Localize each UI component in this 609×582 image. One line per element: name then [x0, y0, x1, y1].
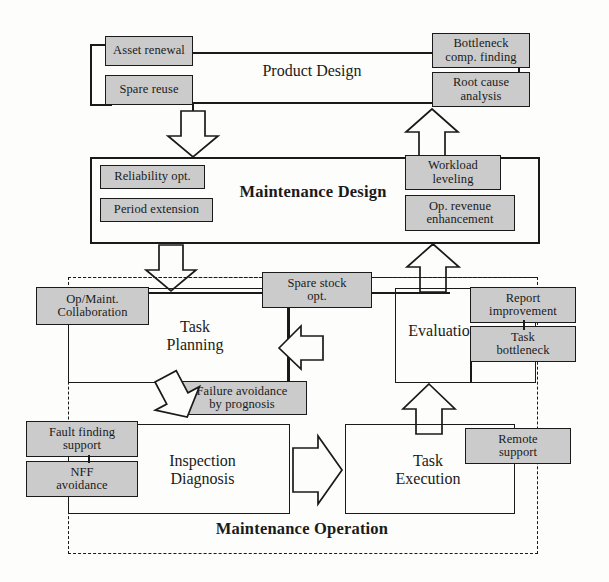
maintenance-design-text: Maintenance Design [239, 182, 386, 201]
section-label-maintenance-design: Maintenance Design [218, 183, 408, 201]
maintenance-operation-text: Maintenance Operation [216, 519, 388, 538]
task-planning-line2: Planning [167, 336, 224, 353]
connector-spare-to-rootcause [192, 102, 437, 104]
section-label-inspection-diagnosis: Inspection Diagnosis [135, 452, 270, 488]
connector-report-to-taskbottleneck [523, 320, 525, 330]
inspection-line2: Diagnosis [171, 470, 235, 487]
chip-task-bottleneck-line1: Task [511, 331, 535, 345]
connector-asset-to-bottleneck [192, 52, 437, 54]
diagram-canvas: Asset renewal Spare reuse Bottleneck com… [0, 0, 609, 582]
arrow-task-planning-to-inspection [139, 375, 205, 423]
chip-fault-finding-line1: Fault finding [49, 426, 115, 440]
chip-bottleneck-line2: comp. finding [445, 51, 516, 65]
chip-bottleneck-line1: Bottleneck [453, 37, 508, 51]
chip-nff-avoidance-line2: avoidance [56, 479, 108, 493]
evaluation-text: Evaluation [408, 322, 477, 339]
chip-spare-reuse[interactable]: Spare reuse [105, 75, 193, 105]
chip-root-cause-line2: analysis [460, 90, 501, 104]
chip-reliability-opt-label: Reliability opt. [114, 170, 191, 184]
section-label-product-design: Product Design [232, 62, 392, 80]
execution-line1: Task [413, 452, 443, 469]
execution-line2: Execution [396, 470, 461, 487]
chip-nff-avoidance[interactable]: NFF avoidance [26, 461, 138, 497]
chip-remote-support-line2: support [499, 446, 537, 460]
chip-task-bottleneck-line2: bottleneck [496, 344, 549, 358]
chip-asset-renewal[interactable]: Asset renewal [105, 36, 193, 66]
chip-op-revenue-line2: enhancement [426, 213, 493, 227]
section-label-task-planning: Task Planning [135, 318, 255, 354]
arrow-feedback-to-spare-stock [277, 308, 329, 370]
chip-workload-line2: leveling [432, 173, 473, 187]
chip-workload-leveling[interactable]: Workload leveling [405, 155, 501, 190]
chip-report-improvement-line1: Report [506, 292, 541, 306]
arrow-maintenance-design-to-root-cause [403, 108, 461, 158]
chip-op-maint-line2: Collaboration [57, 306, 127, 320]
section-label-maintenance-operation: Maintenance Operation [152, 520, 452, 538]
chip-bottleneck-comp-finding[interactable]: Bottleneck comp. finding [432, 33, 530, 68]
chip-fault-finding-line2: support [63, 439, 101, 453]
chip-op-maint-collaboration[interactable]: Op/Maint. Collaboration [36, 287, 149, 325]
arrow-inspection-to-task-execution [292, 434, 344, 506]
chip-op-maint-line1: Op/Maint. [66, 293, 119, 307]
product-design-text: Product Design [262, 62, 361, 79]
chip-op-revenue-line1: Op. revenue [429, 200, 491, 214]
chip-period-extension[interactable]: Period extension [100, 198, 213, 222]
dashed-connector-right [372, 277, 536, 278]
connector-left-bracket-top [90, 44, 92, 106]
chip-root-cause-analysis[interactable]: Root cause analysis [432, 72, 530, 107]
chip-workload-line1: Workload [428, 159, 478, 173]
chip-asset-renewal-label: Asset renewal [113, 44, 185, 58]
chip-failure-avoidance-line2: by prognosis [209, 398, 274, 412]
chip-task-bottleneck[interactable]: Task bottleneck [470, 326, 576, 362]
chip-remote-support[interactable]: Remote support [465, 428, 571, 464]
chip-spare-stock-opt[interactable]: Spare stock opt. [262, 272, 372, 308]
chip-report-improvement-line2: improvement [489, 305, 557, 319]
chip-spare-stock-line2: opt. [307, 290, 327, 304]
dashed-connector-left [68, 277, 268, 278]
connector-taskplanning-top [149, 292, 262, 294]
chip-report-improvement[interactable]: Report improvement [470, 287, 576, 323]
chip-spare-reuse-label: Spare reuse [119, 83, 178, 97]
connector-faultfinding-to-nff [88, 455, 90, 463]
chip-failure-avoidance-line1: Failure avoidance [197, 385, 288, 399]
inspection-line1: Inspection [169, 452, 236, 469]
chip-root-cause-line1: Root cause [453, 76, 509, 90]
connector-taskbottleneck-down [470, 362, 472, 383]
chip-spare-stock-line1: Spare stock [287, 277, 346, 291]
chip-nff-avoidance-line1: NFF [70, 466, 93, 480]
chip-fault-finding-support[interactable]: Fault finding support [26, 421, 138, 457]
task-planning-line1: Task [180, 318, 210, 335]
chip-reliability-opt[interactable]: Reliability opt. [100, 165, 205, 189]
chip-period-extension-label: Period extension [114, 203, 199, 217]
arrow-product-to-maintenance-design [165, 110, 221, 158]
chip-remote-support-line1: Remote [498, 433, 537, 447]
chip-op-revenue-enhancement[interactable]: Op. revenue enhancement [405, 195, 515, 231]
